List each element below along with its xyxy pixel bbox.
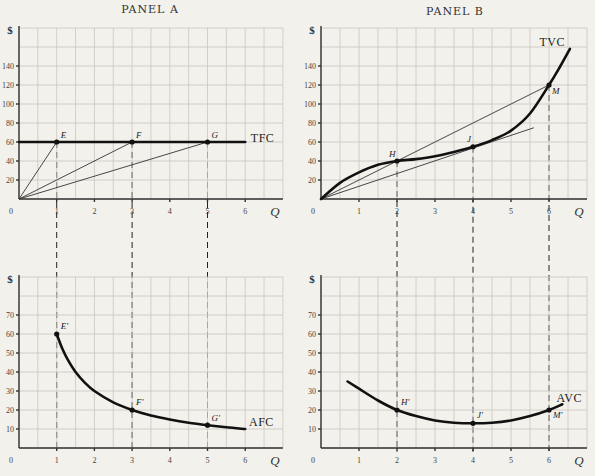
- y-tick-label: 20: [6, 406, 14, 415]
- y-axis-label: $: [309, 24, 315, 36]
- point-marker: [130, 407, 135, 412]
- x-tick-label: 1: [357, 207, 361, 216]
- y-tick-label: 20: [308, 406, 316, 415]
- x-tick-label: 4: [168, 456, 172, 465]
- point-label: J': [477, 410, 484, 420]
- x-tick-label: 2: [395, 456, 399, 465]
- point-label: G: [212, 130, 219, 140]
- panel-b-total-variable-cost: PANEL B$0Q12345620406080100120140TVCHJM: [304, 5, 587, 219]
- x-tick-label: 3: [433, 207, 437, 216]
- point-label: H': [400, 397, 410, 407]
- x-tick-label: 4: [471, 207, 475, 216]
- y-tick-label: 60: [6, 330, 14, 339]
- x-axis-label: Q: [270, 204, 280, 219]
- curve-label: TVC: [540, 35, 566, 49]
- x-tick-label: 4: [471, 456, 475, 465]
- point-marker: [546, 82, 551, 87]
- point-label: H: [388, 149, 396, 159]
- x-axis-label: Q: [270, 453, 280, 468]
- grid: [321, 28, 587, 199]
- point-marker: [394, 407, 399, 412]
- x-tick-label: 6: [243, 207, 247, 216]
- y-tick-label: 40: [308, 157, 316, 166]
- y-tick-label: 100: [304, 100, 316, 109]
- tvc-curve: [321, 49, 570, 199]
- panel-c-average-fixed-cost: $0Q12345610203040506070AFCE'F'G': [6, 273, 283, 468]
- x-tick-label: 3: [130, 456, 134, 465]
- x-tick-label: 3: [130, 207, 134, 216]
- y-tick-label: 50: [308, 349, 316, 358]
- curve-label: TFC: [251, 131, 275, 145]
- y-axis-label: $: [309, 273, 315, 285]
- tangent-ray-through-J: [321, 128, 534, 199]
- curve-label: AVC: [557, 391, 582, 405]
- y-tick-label: 80: [6, 119, 14, 128]
- point-marker: [205, 423, 210, 428]
- y-tick-label: 100: [2, 100, 14, 109]
- point-label: M: [551, 86, 560, 96]
- origin-label: 0: [9, 207, 13, 216]
- y-tick-label: 80: [308, 119, 316, 128]
- x-tick-label: 5: [509, 207, 513, 216]
- point-marker: [54, 331, 59, 336]
- x-tick-label: 6: [243, 456, 247, 465]
- x-tick-label: 1: [357, 456, 361, 465]
- x-tick-label: 6: [547, 456, 551, 465]
- y-tick-label: 140: [2, 62, 14, 71]
- y-axis-label: $: [7, 273, 13, 285]
- y-tick-label: 20: [308, 176, 316, 185]
- panel-d-average-variable-cost: $0Q12345610203040506070AVCH'J'M': [308, 273, 587, 468]
- y-tick-label: 40: [308, 368, 316, 377]
- curve-label: AFC: [249, 415, 274, 429]
- panel-title: PANEL A: [121, 3, 179, 16]
- point-marker: [205, 139, 210, 144]
- point-label: E': [60, 321, 69, 331]
- y-tick-label: 10: [6, 425, 14, 434]
- y-tick-label: 50: [6, 349, 14, 358]
- point-marker: [54, 139, 59, 144]
- x-axis-label: Q: [574, 453, 584, 468]
- point-label: M': [552, 410, 563, 420]
- y-tick-label: 70: [6, 311, 14, 320]
- point-label: F: [135, 130, 142, 140]
- y-tick-label: 40: [6, 368, 14, 377]
- x-tick-label: 2: [92, 207, 96, 216]
- y-tick-label: 120: [2, 81, 14, 90]
- y-tick-label: 140: [304, 62, 316, 71]
- origin-label: 0: [9, 456, 13, 465]
- point-marker: [130, 139, 135, 144]
- x-tick-label: 2: [92, 456, 96, 465]
- y-tick-label: 120: [304, 81, 316, 90]
- origin-label: 0: [311, 207, 315, 216]
- y-tick-label: 20: [6, 176, 14, 185]
- x-tick-label: 1: [55, 207, 59, 216]
- point-label: E: [60, 130, 67, 140]
- x-tick-label: 6: [547, 207, 551, 216]
- figure-canvas: PANEL A$0Q12345620406080100120140TFCEFG …: [0, 0, 595, 476]
- y-tick-label: 30: [308, 387, 316, 396]
- point-marker: [470, 144, 475, 149]
- y-tick-label: 10: [308, 425, 316, 434]
- x-tick-label: 5: [509, 456, 513, 465]
- x-tick-label: 3: [433, 456, 437, 465]
- y-tick-label: 60: [6, 138, 14, 147]
- point-marker: [546, 407, 551, 412]
- point-label: G': [212, 413, 221, 423]
- y-axis-label: $: [7, 24, 13, 36]
- point-marker: [470, 421, 475, 426]
- origin-label: 0: [311, 456, 315, 465]
- point-marker: [394, 158, 399, 163]
- cost-curves-figure: PANEL A$0Q12345620406080100120140TFCEFG …: [0, 0, 595, 476]
- panel-title: PANEL B: [426, 5, 484, 18]
- grid: [19, 28, 283, 199]
- x-tick-label: 4: [168, 207, 172, 216]
- point-label: F': [135, 397, 144, 407]
- x-axis-label: Q: [574, 204, 584, 219]
- x-tick-label: 2: [395, 207, 399, 216]
- x-tick-label: 1: [55, 456, 59, 465]
- y-tick-label: 60: [308, 330, 316, 339]
- x-tick-label: 5: [206, 456, 210, 465]
- grid: [19, 277, 283, 448]
- y-tick-label: 70: [308, 311, 316, 320]
- y-tick-label: 40: [6, 157, 14, 166]
